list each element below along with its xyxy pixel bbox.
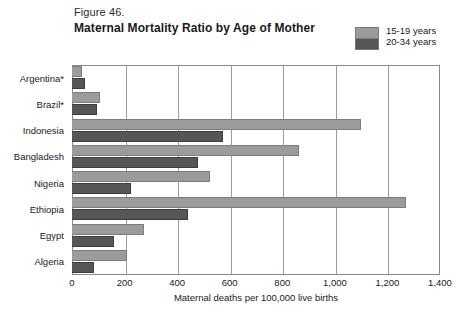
x-tick-label: 600	[222, 277, 238, 288]
bar	[72, 224, 144, 235]
bar	[72, 183, 131, 194]
bar-group	[72, 223, 440, 249]
bar-group	[72, 170, 440, 196]
bar	[72, 92, 100, 103]
legend-swatch-group	[355, 27, 379, 50]
bar-group	[72, 65, 440, 91]
bar	[72, 157, 198, 168]
bar	[72, 131, 223, 142]
figure-maternal-mortality: Figure 46. Maternal Mortality Ratio by A…	[0, 0, 458, 313]
legend-label-15-19: 15-19 years	[386, 25, 436, 36]
bar-group	[72, 196, 440, 222]
bar-group	[72, 91, 440, 117]
category-label-bangladesh: Bangladesh	[0, 144, 68, 170]
legend-swatch-15-19	[355, 27, 379, 39]
x-tick-label: 400	[169, 277, 185, 288]
bar-rows	[72, 65, 440, 275]
x-tick-label: 200	[117, 277, 133, 288]
x-tick-label: 1,400	[428, 277, 452, 288]
category-label-algeria: Algeria	[0, 249, 68, 275]
bar	[72, 78, 85, 89]
chart-legend: 15-19 years 20-34 years	[355, 25, 436, 50]
category-label-argentina: Argentina*	[0, 65, 68, 91]
bar	[72, 236, 114, 247]
legend-label-group: 15-19 years 20-34 years	[386, 25, 436, 47]
bar	[72, 209, 188, 220]
category-axis-labels: Argentina*Brazil*IndonesiaBangladeshNige…	[0, 65, 68, 275]
category-label-brazil: Brazil*	[0, 91, 68, 117]
bar	[72, 197, 406, 208]
x-axis-tick-labels: 02004006008001,0001,2001,400	[72, 277, 440, 291]
x-tick-label: 1,200	[376, 277, 400, 288]
x-tick-label: 1,000	[323, 277, 347, 288]
category-label-egypt: Egypt	[0, 223, 68, 249]
x-tick-label: 0	[69, 277, 74, 288]
bar	[72, 250, 127, 261]
bar	[72, 119, 361, 130]
legend-label-20-34: 20-34 years	[386, 36, 436, 47]
x-axis-title: Maternal deaths per 100,000 live births	[72, 292, 440, 303]
bar-group	[72, 144, 440, 170]
legend-swatch-20-34	[355, 39, 379, 50]
bar	[72, 104, 97, 115]
category-label-indonesia: Indonesia	[0, 118, 68, 144]
category-label-ethiopia: Ethiopia	[0, 196, 68, 222]
bar	[72, 171, 210, 182]
bar	[72, 66, 82, 77]
bar	[72, 145, 299, 156]
title-block: Figure 46. Maternal Mortality Ratio by A…	[74, 6, 315, 36]
category-label-nigeria: Nigeria	[0, 170, 68, 196]
x-tick-label: 800	[274, 277, 290, 288]
bar-group	[72, 118, 440, 144]
bar-group	[72, 249, 440, 275]
figure-title: Maternal Mortality Ratio by Age of Mothe…	[74, 21, 315, 36]
bar	[72, 262, 94, 273]
figure-number: Figure 46.	[74, 6, 315, 20]
